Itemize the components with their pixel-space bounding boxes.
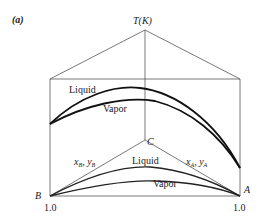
upper-vapor-label: Vapor — [103, 103, 128, 114]
tick-right-value: 1.0 — [233, 202, 246, 213]
roof-left-edge — [50, 30, 145, 79]
left-composition-label: xB, yB — [73, 156, 96, 168]
right-composition-label: xA, yA — [185, 156, 208, 168]
phase-diagram: (a) T(K) Liquid Vapor C xB, yB xA, yA Li… — [0, 0, 260, 220]
lower-vapor-label: Vapor — [153, 178, 178, 189]
corner-a-label: A — [243, 184, 251, 195]
corner-b-label: B — [35, 190, 41, 201]
panel-label: (a) — [12, 14, 24, 26]
apex-c-label: C — [147, 136, 154, 147]
temperature-axis-label: T(K) — [133, 15, 153, 27]
upper-liquid-label: Liquid — [69, 84, 96, 95]
lower-liquid-label: Liquid — [132, 155, 159, 166]
tick-left-value: 1.0 — [44, 202, 57, 213]
roof-right-edge — [145, 30, 240, 79]
